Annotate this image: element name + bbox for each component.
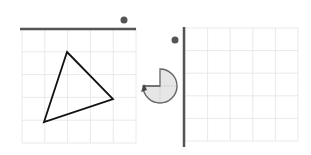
triangle-shape bbox=[44, 52, 113, 122]
left-grid bbox=[22, 29, 136, 143]
left-reference-dot bbox=[121, 17, 128, 24]
transformation-diagram bbox=[0, 0, 311, 155]
rotation-icon bbox=[141, 69, 177, 103]
right-reference-dot bbox=[172, 37, 179, 44]
right-grid bbox=[185, 28, 298, 141]
